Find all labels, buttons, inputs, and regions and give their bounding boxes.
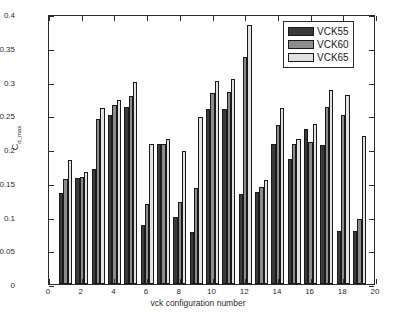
x-tick-mark xyxy=(114,279,115,284)
bar-VCK65-13 xyxy=(264,180,268,284)
bar-VCK65-18 xyxy=(345,95,349,284)
x-tick-mark-top xyxy=(245,16,246,21)
bar-VCK65-14 xyxy=(280,108,284,284)
bar-VCK65-4 xyxy=(117,100,121,284)
y-tick-label: 0.3 xyxy=(0,78,15,87)
bar-VCK65-12 xyxy=(247,25,251,284)
legend-label: VCK65 xyxy=(317,53,349,63)
legend-swatch-icon xyxy=(288,53,314,62)
x-tick-mark-top xyxy=(49,16,50,21)
bar-VCK65-6 xyxy=(149,144,153,284)
x-tick-mark xyxy=(82,279,83,284)
y-tick-mark-right xyxy=(369,151,374,152)
x-tick-mark-top xyxy=(376,16,377,21)
legend-item-VCK65: VCK65 xyxy=(288,51,349,64)
bar-VCK65-8 xyxy=(182,151,186,284)
bar-VCK65-9 xyxy=(198,117,202,284)
y-tick-mark xyxy=(49,219,54,220)
legend-item-VCK55: VCK55 xyxy=(288,25,349,38)
bar-VCK65-16 xyxy=(313,124,317,284)
x-tick-mark-top xyxy=(114,16,115,21)
x-tick-mark xyxy=(311,279,312,284)
x-axis-label: vck configuration number xyxy=(0,298,396,308)
y-tick-label: 0.1 xyxy=(0,213,15,222)
x-tick-mark xyxy=(343,279,344,284)
legend-swatch-icon xyxy=(288,40,314,49)
bar-VCK65-3 xyxy=(100,108,104,284)
x-tick-mark xyxy=(376,279,377,284)
x-tick-label: 10 xyxy=(207,287,216,296)
legend-label: VCK60 xyxy=(317,40,349,50)
x-tick-label: 2 xyxy=(78,287,82,296)
chart-legend: VCK55VCK60VCK65 xyxy=(283,21,354,68)
x-tick-mark xyxy=(245,279,246,284)
x-tick-label: 20 xyxy=(371,287,380,296)
y-tick-mark xyxy=(49,50,54,51)
y-tick-label: 0.35 xyxy=(0,44,15,53)
y-tick-mark xyxy=(49,84,54,85)
x-tick-mark-top xyxy=(180,16,181,21)
bar-VCK65-11 xyxy=(231,79,235,284)
x-tick-mark-top xyxy=(82,16,83,21)
y-tick-mark-right xyxy=(369,219,374,220)
x-tick-label: 0 xyxy=(46,287,50,296)
y-tick-mark-right xyxy=(369,252,374,253)
y-axis-label-subscript: d_max xyxy=(16,126,22,144)
bar-VCK65-5 xyxy=(133,82,137,284)
bar-VCK65-7 xyxy=(166,139,170,284)
y-axis-label: Cd_max xyxy=(10,98,22,178)
x-tick-mark-top xyxy=(213,16,214,21)
y-tick-label: 0.15 xyxy=(0,179,15,188)
y-tick-mark-right xyxy=(369,84,374,85)
legend-swatch-icon xyxy=(288,27,314,36)
y-tick-mark-right xyxy=(369,185,374,186)
legend-item-VCK60: VCK60 xyxy=(288,38,349,51)
x-tick-mark xyxy=(49,279,50,284)
x-tick-label: 14 xyxy=(272,287,281,296)
x-tick-mark xyxy=(213,279,214,284)
x-tick-label: 12 xyxy=(240,287,249,296)
legend-label: VCK55 xyxy=(317,27,349,37)
y-tick-mark-right xyxy=(369,117,374,118)
bar-VCK65-2 xyxy=(84,172,88,284)
y-tick-mark xyxy=(49,252,54,253)
bar-VCK65-10 xyxy=(215,81,219,284)
y-tick-label: 0.05 xyxy=(0,247,15,256)
bar-VCK65-1 xyxy=(68,160,72,284)
y-tick-label: 0.2 xyxy=(0,146,15,155)
bar-VCK65-17 xyxy=(329,90,333,284)
bar-VCK65-15 xyxy=(296,139,300,284)
y-tick-mark-right xyxy=(369,50,374,51)
x-tick-label: 8 xyxy=(177,287,181,296)
x-tick-mark-top xyxy=(147,16,148,21)
y-tick-label: 0.4 xyxy=(0,11,15,20)
y-tick-mark-right xyxy=(369,16,374,17)
y-tick-mark xyxy=(49,117,54,118)
y-tick-mark xyxy=(49,151,54,152)
y-tick-label: 0.25 xyxy=(0,112,15,121)
x-tick-mark-top xyxy=(278,16,279,21)
figure: Cd_max 00.050.10.150.20.250.30.350.40246… xyxy=(0,0,396,317)
x-tick-mark xyxy=(278,279,279,284)
x-tick-mark xyxy=(180,279,181,284)
y-tick-mark xyxy=(49,185,54,186)
x-tick-label: 16 xyxy=(305,287,314,296)
x-tick-label: 6 xyxy=(144,287,148,296)
bar-VCK65-19 xyxy=(362,136,366,284)
x-tick-label: 18 xyxy=(338,287,347,296)
x-tick-label: 4 xyxy=(111,287,115,296)
y-tick-label: 0 xyxy=(0,281,15,290)
x-tick-mark xyxy=(147,279,148,284)
